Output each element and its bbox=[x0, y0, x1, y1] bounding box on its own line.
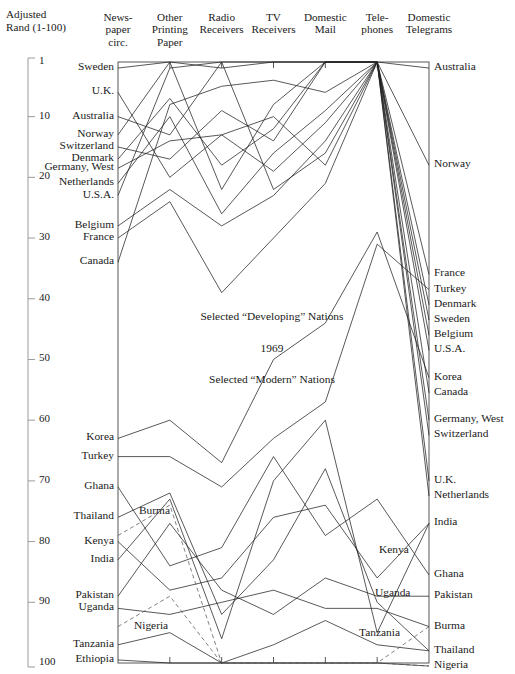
series-line bbox=[118, 505, 429, 663]
series-line bbox=[118, 62, 429, 393]
series-line bbox=[118, 469, 429, 651]
series-line bbox=[118, 62, 429, 420]
parallel-coordinates-chart: Adjusted Rand (1-100) News-papercirc.Oth… bbox=[0, 0, 515, 674]
plot-svg bbox=[0, 0, 515, 674]
series-line bbox=[118, 505, 429, 590]
scale-bar bbox=[28, 58, 35, 667]
series-line bbox=[118, 457, 429, 575]
series-line bbox=[118, 621, 429, 663]
series-line bbox=[118, 523, 429, 614]
series-line bbox=[118, 232, 429, 463]
series-line bbox=[118, 244, 429, 487]
series-line bbox=[118, 420, 429, 639]
series-line bbox=[118, 62, 429, 496]
series-line bbox=[118, 62, 429, 481]
